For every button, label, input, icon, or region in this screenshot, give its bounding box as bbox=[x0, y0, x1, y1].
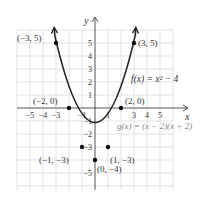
x-tick: 5 bbox=[158, 111, 162, 120]
x-tick: −4 bbox=[39, 111, 48, 120]
point-label: (−2, 0) bbox=[33, 96, 58, 106]
y-tick: 1 bbox=[88, 91, 92, 100]
point-label: (−1, −3) bbox=[39, 155, 69, 165]
x-tick: 3 bbox=[132, 111, 136, 120]
point bbox=[80, 145, 84, 149]
point bbox=[67, 106, 71, 110]
y-tick: −3 bbox=[83, 143, 92, 152]
y-tick: 2 bbox=[88, 78, 92, 87]
point bbox=[119, 106, 123, 110]
point-label: (−3, 5) bbox=[17, 33, 42, 43]
point-label: (0, −4) bbox=[97, 164, 122, 174]
point-label: (2, 0) bbox=[125, 96, 145, 106]
point bbox=[93, 158, 97, 162]
f-function-label: f(x) = x² − 4 bbox=[131, 74, 179, 85]
y-tick: 4 bbox=[88, 52, 92, 61]
parabola-graph: x y −5 −4 −3 −1 1 3 4 5 5 4 3 2 1 −1 −2 … bbox=[0, 0, 221, 202]
y-tick: 5 bbox=[88, 39, 92, 48]
point bbox=[54, 41, 58, 45]
y-tick: −5 bbox=[83, 169, 92, 178]
x-tick: −3 bbox=[52, 111, 61, 120]
g-function-label: g(x) = (x − 2)(x + 2) bbox=[117, 121, 192, 131]
x-tick: −5 bbox=[26, 111, 35, 120]
x-tick: 4 bbox=[145, 111, 149, 120]
y-axis-label: y bbox=[83, 15, 89, 26]
point-label: (3, 5) bbox=[138, 38, 158, 48]
point bbox=[132, 41, 136, 45]
y-tick: 3 bbox=[88, 65, 92, 74]
point bbox=[106, 145, 110, 149]
y-tick: −2 bbox=[83, 130, 92, 139]
